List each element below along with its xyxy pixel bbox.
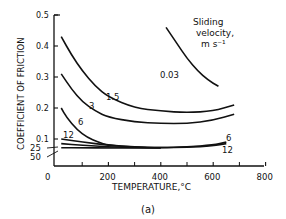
x-tick-label: 200 bbox=[99, 172, 115, 182]
legend-title-line1: Sliding bbox=[193, 17, 223, 27]
x-axis-label: TEMPERATURE,°C bbox=[111, 182, 191, 192]
y-tick-label: 0.2 bbox=[36, 104, 49, 113]
legend-title-line2: velocity, bbox=[196, 28, 234, 38]
curve-label-right: 6 bbox=[226, 133, 231, 143]
y-tick-label: 0.4 bbox=[36, 42, 49, 51]
legend-title-line3: m s⁻¹ bbox=[201, 39, 226, 49]
curve-label: 6 bbox=[78, 117, 83, 127]
curve-6 bbox=[61, 108, 226, 147]
curve-label: 12 bbox=[63, 130, 74, 140]
subfigure-label: (a) bbox=[141, 204, 155, 215]
y-tick-label: 0.3 bbox=[36, 73, 49, 82]
y-ticks: 0.10.20.30.40.5 bbox=[36, 11, 60, 144]
leader-line bbox=[47, 151, 58, 157]
curve-label: 0.03 bbox=[160, 70, 179, 80]
curve-label: 50 bbox=[30, 152, 41, 162]
x-tick-label: 600 bbox=[204, 172, 220, 182]
curve-label-right: 12 bbox=[222, 145, 233, 155]
friction-chart: 0.10.20.30.40.5 0200400600800 0.031.5361… bbox=[0, 0, 286, 219]
leader-line bbox=[47, 147, 58, 148]
curve-label: 1.5 bbox=[106, 92, 120, 102]
y-axis-label: COEFFICIENT OF FRICTION bbox=[16, 37, 26, 150]
curve-3 bbox=[61, 74, 234, 124]
x-ticks: 0200400600800 bbox=[45, 162, 273, 182]
curve-label: 3 bbox=[89, 101, 94, 111]
y-tick-label: 0.5 bbox=[36, 11, 49, 20]
x-tick-label: 800 bbox=[257, 172, 273, 182]
x-tick-label: 0 bbox=[45, 172, 50, 182]
x-tick-label: 400 bbox=[152, 172, 168, 182]
